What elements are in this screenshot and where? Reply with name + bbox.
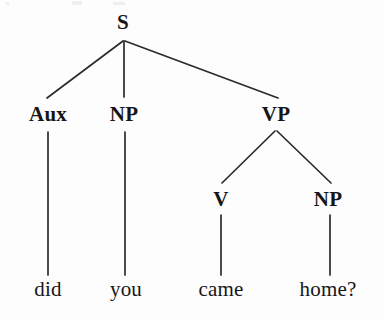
scan-speck-1 <box>6 2 9 5</box>
syntax-tree-figure: S Aux NP VP V NP did you came home? <box>0 0 383 319</box>
tree-leaf-you: you <box>110 279 142 300</box>
tree-edge-s-to-vp <box>125 41 278 98</box>
tree-node-s: S <box>117 12 129 33</box>
tree-edge-vp-to-np2 <box>277 131 331 183</box>
tree-leaf-home: home? <box>300 279 357 300</box>
tree-edges-layer <box>0 0 383 319</box>
tree-node-vp: VP <box>262 104 290 125</box>
tree-node-np-object: NP <box>314 189 342 210</box>
tree-edge-vp-to-v <box>222 131 275 183</box>
tree-node-np-subject: NP <box>110 104 138 125</box>
tree-node-v: V <box>213 189 228 210</box>
tree-edge-s-to-aux <box>47 41 123 98</box>
tree-leaf-came: came <box>198 279 243 300</box>
tree-leaf-did: did <box>34 279 61 300</box>
scan-speck-2 <box>72 1 82 5</box>
scan-speck-3 <box>113 2 125 5</box>
tree-node-aux: Aux <box>29 104 67 125</box>
